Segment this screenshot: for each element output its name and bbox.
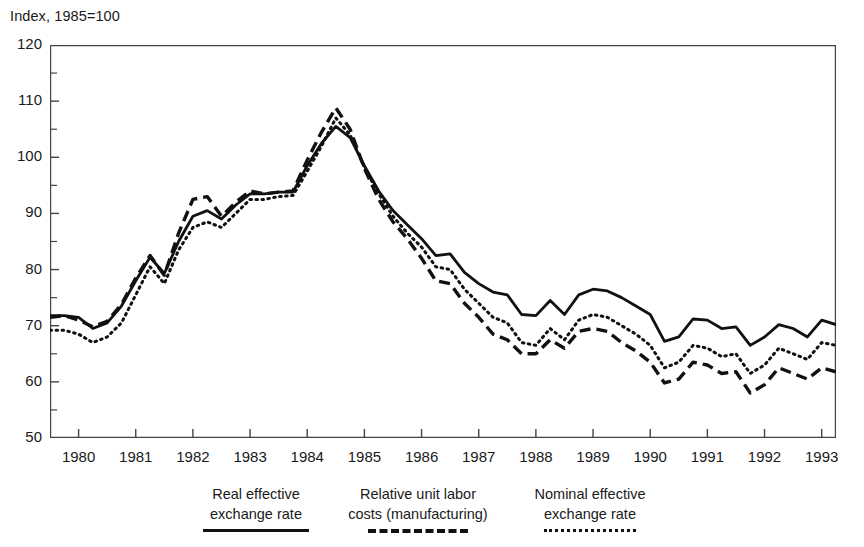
x-tick-1980: 1980	[49, 448, 109, 465]
x-tick-1991: 1991	[677, 448, 737, 465]
series-line-3	[50, 118, 836, 373]
chart-figure: Index, 1985=100 5060708090100110120 1980…	[0, 0, 864, 547]
series-line-2	[50, 108, 836, 393]
legend-label-line2: exchange rate	[500, 504, 680, 524]
legend-swatch-solid	[203, 529, 309, 540]
data-series-group	[50, 108, 836, 393]
legend-label-line1: Real effective	[176, 484, 336, 504]
y-axis-title: Index, 1985=100	[10, 8, 120, 24]
axis-ticks	[50, 45, 822, 438]
chart-legend: Real effectiveexchange rateRelative unit…	[0, 484, 864, 547]
legend-label-line1: Nominal effective	[500, 484, 680, 504]
legend-item-nominal-effective-exchange-rate: Nominal effectiveexchange rate	[500, 484, 680, 540]
x-tick-1984: 1984	[277, 448, 337, 465]
y-tick-80: 80	[2, 260, 42, 277]
x-tick-1983: 1983	[220, 448, 280, 465]
x-tick-1987: 1987	[449, 448, 509, 465]
y-tick-70: 70	[2, 316, 42, 333]
legend-item-relative-unit-labor-costs: Relative unit laborcosts (manufacturing)	[318, 484, 518, 541]
x-tick-1989: 1989	[563, 448, 623, 465]
x-tick-1985: 1985	[334, 448, 394, 465]
y-tick-60: 60	[2, 372, 42, 389]
legend-item-real-effective-exchange-rate: Real effectiveexchange rate	[176, 484, 336, 540]
legend-label-line1: Relative unit labor	[318, 484, 518, 504]
y-tick-90: 90	[2, 203, 42, 220]
x-tick-1992: 1992	[735, 448, 795, 465]
legend-swatch-dashed	[368, 529, 468, 541]
x-tick-1986: 1986	[392, 448, 452, 465]
y-tick-120: 120	[2, 35, 42, 52]
y-tick-110: 110	[2, 91, 42, 108]
x-tick-1981: 1981	[106, 448, 166, 465]
plot-area	[50, 45, 836, 438]
y-tick-50: 50	[2, 428, 42, 445]
series-line-1	[50, 126, 836, 345]
x-tick-1993: 1993	[792, 448, 852, 465]
legend-label-line2: exchange rate	[176, 504, 336, 524]
x-tick-1988: 1988	[506, 448, 566, 465]
chart-svg	[50, 45, 836, 438]
axis-frame	[51, 46, 836, 438]
legend-swatch-dotted	[544, 529, 636, 540]
y-tick-100: 100	[2, 147, 42, 164]
x-tick-1990: 1990	[620, 448, 680, 465]
legend-label-line2: costs (manufacturing)	[318, 504, 518, 524]
x-tick-1982: 1982	[163, 448, 223, 465]
